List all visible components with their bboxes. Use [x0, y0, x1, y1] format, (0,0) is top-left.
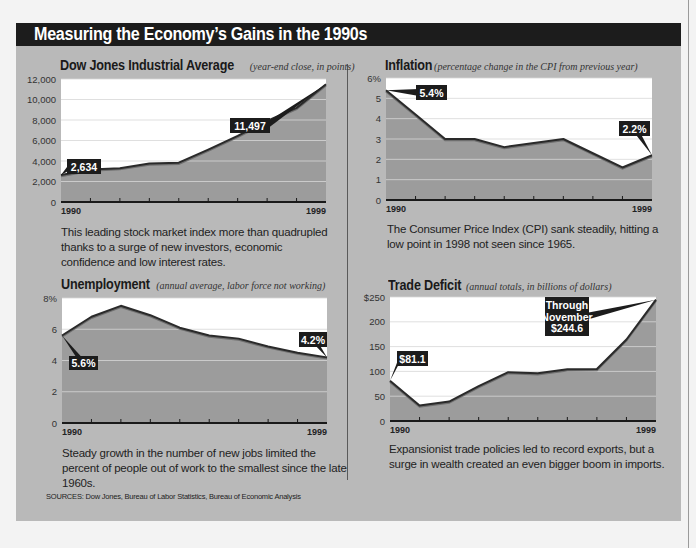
sources-note: SOURCES: Dow Jones, Bureau of Labor Stat…	[46, 492, 301, 501]
trade-y-tick-label: 0	[380, 416, 385, 427]
trade-x-end-label: 1999	[636, 425, 656, 435]
trade-callout-label: $81.1	[399, 353, 425, 365]
trade-x-start-label: 1990	[390, 425, 410, 435]
trade-y-tick-label: 50	[374, 391, 385, 402]
trade-callout-label: Through	[546, 299, 589, 311]
trade-callout-label: $244.6	[551, 322, 583, 334]
trade-y-tick-label: 100	[369, 366, 385, 377]
trade-caption: Expansionist trade policies led to recor…	[389, 442, 669, 472]
trade-callout-label: November	[541, 311, 592, 323]
trade-y-tick-label: $250	[364, 292, 385, 303]
trade-y-tick-label: 200	[369, 316, 385, 327]
trade-y-tick-label: 150	[369, 341, 385, 352]
